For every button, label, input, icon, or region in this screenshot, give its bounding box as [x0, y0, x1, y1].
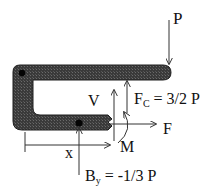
- reaction-by: By = -1/3 P: [79, 128, 156, 186]
- label-by-value: = -1/3 P: [101, 167, 157, 184]
- moment-m: M: [118, 112, 134, 155]
- load-p: P: [169, 9, 182, 64]
- pin-b: [75, 119, 82, 126]
- dimension-x: x: [25, 132, 110, 161]
- label-x: x: [65, 144, 73, 161]
- force-f: F: [108, 120, 172, 137]
- label-p: P: [173, 9, 182, 28]
- pin-top-left: [19, 70, 25, 76]
- label-v: V: [88, 92, 100, 109]
- svg-text:FC = 3/2 P: FC = 3/2 P: [134, 90, 200, 109]
- label-f: F: [163, 120, 172, 137]
- label-fc-value: = 3/2 P: [150, 90, 200, 107]
- label-m: M: [120, 138, 134, 155]
- label-fc: F: [134, 90, 143, 107]
- free-body-diagram: P FC = 3/2 P V F M x By = -1/3 P: [0, 0, 222, 192]
- force-fc: FC = 3/2 P: [127, 81, 200, 113]
- label-by: B: [85, 167, 96, 184]
- svg-text:By = -1/3 P: By = -1/3 P: [85, 167, 156, 186]
